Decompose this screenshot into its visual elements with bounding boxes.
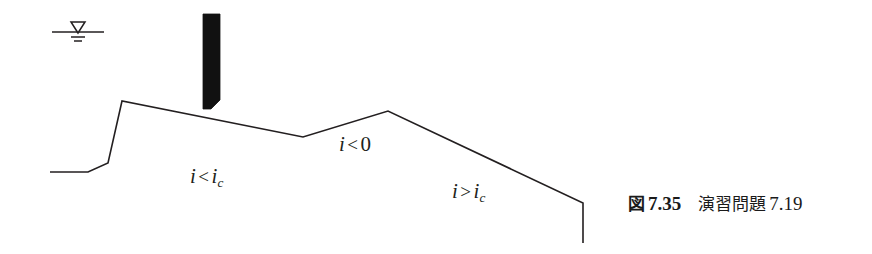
- caption-tag: 図: [628, 190, 645, 215]
- label-i-less-than-ic-op: <: [196, 166, 211, 187]
- label-i-less-than-ic: i<ic: [190, 164, 224, 189]
- label-i-greater-than-ic: i>ic: [452, 179, 486, 204]
- caption-title-number: 7.19: [769, 193, 802, 215]
- figure-drawing: [0, 0, 872, 254]
- water-table-symbol: [52, 22, 104, 41]
- label-i-greater-than-ic-op: >: [458, 181, 473, 202]
- channel-bed-profile: [50, 101, 583, 243]
- figure-caption: 図 7.35 演習問題 7.19: [628, 190, 803, 215]
- label-i-greater-than-ic-subscript: c: [479, 190, 485, 205]
- label-i-less-than-zero-target: 0: [361, 132, 372, 156]
- label-i-less-than-ic-subscript: c: [217, 175, 223, 190]
- label-i-less-than-zero: i<0: [339, 132, 372, 157]
- label-i-less-than-zero-op: <: [345, 134, 360, 155]
- sluice-gate: [203, 14, 220, 109]
- figure-container: i<ic i<0 i>ic 図 7.35 演習問題 7.19: [0, 0, 872, 254]
- caption-title: 演習問題: [698, 190, 766, 215]
- caption-number: 7.35: [648, 193, 681, 215]
